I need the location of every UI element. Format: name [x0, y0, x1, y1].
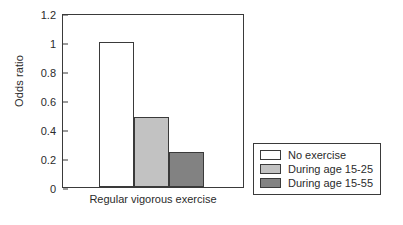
y-axis-title: Odds ratio — [13, 36, 25, 126]
y-tick-label: 1 — [50, 39, 63, 50]
legend-label: No exercise — [288, 150, 346, 161]
legend-item: No exercise — [260, 148, 373, 162]
bar-chart-figure: Odds ratio 00.20.40.60.811.2 Regular vig… — [0, 0, 403, 225]
y-tick-label: 0.4 — [41, 126, 63, 137]
y-tick-label: 0.6 — [41, 97, 63, 108]
bar-3 — [169, 152, 204, 187]
legend-label: During age 15-25 — [288, 164, 373, 175]
y-tick-label: 0.2 — [41, 155, 63, 166]
y-tick-mark — [63, 189, 68, 190]
bar-1 — [99, 42, 134, 187]
bar-2 — [134, 117, 169, 187]
y-tick-label: 0.8 — [41, 68, 63, 79]
legend-swatch — [260, 164, 281, 174]
legend: No exerciseDuring age 15-25During age 15… — [253, 143, 381, 195]
bars-group — [63, 15, 243, 187]
x-axis-label: Regular vigorous exercise — [62, 193, 244, 205]
legend-item: During age 15-25 — [260, 162, 373, 176]
y-tick-label: 1.2 — [41, 10, 63, 21]
legend-swatch — [260, 178, 281, 188]
legend-swatch — [260, 150, 281, 160]
legend-label: During age 15-55 — [288, 178, 373, 189]
legend-item: During age 15-55 — [260, 176, 373, 190]
plot-area: 00.20.40.60.811.2 — [62, 14, 244, 188]
